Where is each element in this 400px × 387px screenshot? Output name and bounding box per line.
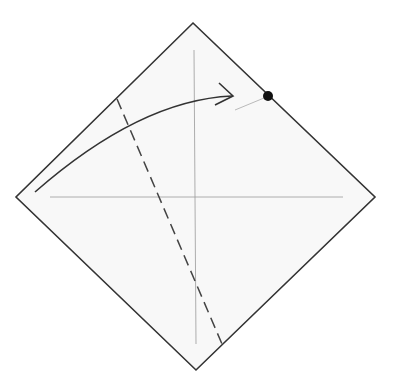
diagram-canvas [0, 0, 400, 387]
origami-diagram [0, 0, 400, 387]
reference-point-dot [263, 91, 273, 101]
